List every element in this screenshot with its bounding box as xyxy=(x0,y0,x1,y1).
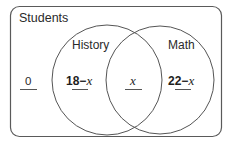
history-label: History xyxy=(72,38,109,52)
outside-value: 0 xyxy=(25,75,31,87)
math-label: Math xyxy=(168,38,195,52)
history-only-value: 18−x xyxy=(66,73,92,88)
intersection-value: x xyxy=(129,73,136,88)
venn-diagram: Students History Math 0 18−x x 22−x xyxy=(0,0,229,144)
universe-label: Students xyxy=(19,11,68,25)
math-only-value: 22−x xyxy=(168,73,194,88)
math-circle xyxy=(106,26,214,134)
